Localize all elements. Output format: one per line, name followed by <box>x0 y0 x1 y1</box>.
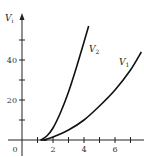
y-axis-label: Vi <box>5 13 14 24</box>
y-tick-label: 20 <box>7 96 17 105</box>
series-v2-line <box>41 26 89 140</box>
origin-label: 0 <box>12 145 17 154</box>
x-tick-label: 6 <box>112 145 117 154</box>
axes <box>8 13 144 156</box>
x-tick-label: 2 <box>50 145 55 154</box>
labels: 24620400ViV2V1 <box>5 13 129 154</box>
series-v2-label: V2 <box>89 44 100 55</box>
chart: 24620400ViV2V1 <box>0 0 144 157</box>
y-axis-arrow-icon <box>20 13 25 20</box>
x-tick-label: 4 <box>81 145 86 154</box>
series-v1-label: V1 <box>119 57 129 68</box>
y-tick-label: 40 <box>7 56 17 65</box>
